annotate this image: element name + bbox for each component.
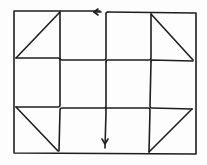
quilt-diagram — [0, 0, 207, 165]
corner-triangles — [16, 12, 193, 152]
path-center-left — [59, 62, 106, 151]
diagram-canvas: Quilt block path diagram — [0, 0, 207, 165]
path-center-right — [106, 108, 150, 152]
path-top-right-cell — [106, 14, 151, 62]
triangle-bottom-left — [16, 107, 58, 151]
arrow-left-icon — [94, 9, 101, 15]
path-left-middle — [16, 58, 60, 107]
path-top-right-base — [151, 60, 193, 62]
triangle-top-right — [151, 14, 193, 60]
path-right-middle — [150, 62, 192, 109]
grid-lines — [16, 12, 193, 152]
triangle-bottom-right — [149, 109, 192, 152]
path-top-middle — [60, 12, 108, 60]
triangle-top-left — [16, 12, 60, 58]
